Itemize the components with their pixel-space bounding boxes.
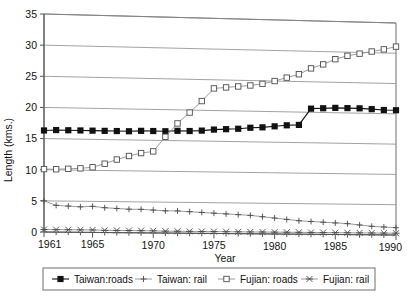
marker-fujian-roads-9 — [151, 149, 156, 154]
marker-fujian-roads-0 — [41, 166, 46, 171]
marker-taiwan-roads-2 — [65, 127, 71, 133]
marker-taiwan-roads-3 — [77, 127, 83, 133]
marker-fujian-roads-11 — [175, 121, 180, 126]
marker-taiwan-rail-22 — [308, 218, 314, 224]
marker-taiwan-roads-22 — [308, 106, 314, 112]
marker-legend--legend — [57, 276, 63, 282]
series-line-0 — [44, 108, 396, 131]
marker-taiwan-rail-5 — [102, 205, 108, 211]
marker-fujian-roads-17 — [248, 83, 253, 88]
marker-fujian-roads-27 — [369, 49, 374, 54]
x-tick-label-1975: 1975 — [202, 239, 226, 251]
line-chart: 05101520253035 1961196519701975198019851… — [0, 0, 409, 299]
legend-label-2: Fujian: roads — [240, 274, 298, 285]
marker-taiwan-rail-11 — [175, 208, 181, 214]
x-tick-label-1980: 1980 — [263, 240, 287, 252]
marker-taiwan-roads-10 — [162, 128, 168, 134]
marker-taiwan-rail-0 — [41, 198, 47, 204]
marker-taiwan-rail-2 — [65, 203, 71, 209]
marker-fujian-roads-13 — [199, 98, 204, 103]
marker-taiwan-roads-5 — [102, 128, 108, 134]
marker-fujian-roads-2 — [66, 166, 71, 171]
y-tick-label-10: 10 — [25, 164, 37, 176]
marker-fujian-roads-1 — [53, 167, 58, 172]
x-tick-label-1985: 1985 — [324, 240, 348, 252]
marker-taiwan-roads-17 — [247, 125, 253, 131]
x-axis-title: Year — [214, 252, 236, 264]
marker-fujian-roads-18 — [260, 81, 265, 86]
marker-taiwan-roads-12 — [187, 128, 193, 134]
legend-label-3: Fujian: rail — [323, 274, 369, 285]
legend-label-0: Taiwan:roads — [74, 274, 133, 285]
chart-legend: Taiwan:roadsTaiwan: railFujian: roadsFuj… — [43, 268, 375, 290]
series-line-1 — [44, 201, 396, 228]
marker-taiwan-roads-24 — [332, 105, 338, 111]
marker-fujian-roads-4 — [90, 165, 95, 170]
marker-taiwan-rail-26 — [357, 222, 363, 228]
y-axis-title: Length (kms.) — [2, 118, 14, 182]
marker-taiwan-rail-6 — [114, 205, 120, 211]
marker-taiwan-roads-29 — [393, 107, 399, 113]
marker-taiwan-rail-29 — [393, 225, 399, 231]
marker-fujian-roads-12 — [187, 110, 192, 115]
marker-taiwan-rail-25 — [344, 221, 350, 227]
marker-taiwan-rail-28 — [381, 224, 387, 230]
marker-fujian-roads-7 — [126, 153, 131, 158]
marker-fujian-roads-24 — [333, 56, 338, 61]
marker-taiwan-rail-18 — [259, 214, 265, 220]
marker-fujian-roads-3 — [78, 166, 83, 171]
marker-taiwan-roads-11 — [174, 128, 180, 134]
y-tick-label-35: 35 — [25, 8, 37, 20]
gridline-15 — [44, 139, 396, 145]
marker-taiwan-rail-9 — [150, 207, 156, 213]
marker-fujian-roads-23 — [320, 62, 325, 67]
y-tick-label-25: 25 — [25, 70, 37, 82]
marker-taiwan-roads-20 — [284, 122, 290, 128]
marker-taiwan-roads-1 — [53, 127, 59, 133]
marker-taiwan-roads-4 — [89, 128, 95, 134]
marker-taiwan-rail-21 — [296, 218, 302, 224]
y-tick-labels: 05101520253035 — [25, 8, 37, 238]
y-tick-label-0: 0 — [31, 226, 37, 238]
marker-taiwan-rail-14 — [211, 210, 217, 216]
marker-taiwan-roads-7 — [126, 128, 132, 134]
gridline-35 — [44, 14, 396, 23]
marker-fujian-roads-22 — [308, 66, 313, 71]
marker-fujian-roads-10 — [163, 134, 168, 139]
marker-taiwan-roads-15 — [223, 126, 229, 132]
marker-fujian-roads-20 — [284, 75, 289, 80]
marker-taiwan-roads-26 — [356, 105, 362, 111]
marker-fujian-roads-8 — [138, 150, 143, 155]
plot-frame — [44, 14, 396, 235]
marker-fujian-roads-6 — [114, 157, 119, 162]
y-tick-label-30: 30 — [25, 39, 37, 51]
series-taiwan-roads — [41, 105, 399, 135]
y-tick-label-5: 5 — [31, 195, 37, 207]
marker-taiwan-roads-27 — [369, 106, 375, 112]
legend-label-1: Taiwan: rail — [157, 274, 207, 285]
marker-taiwan-roads-14 — [211, 126, 217, 132]
gridline-10 — [44, 170, 396, 175]
data-series-layer — [40, 44, 399, 236]
x-tick-label-1961: 1961 — [38, 238, 62, 250]
marker-taiwan-rail-16 — [235, 212, 241, 218]
marker-fujian-roads-28 — [381, 47, 386, 52]
marker-taiwan-roads-13 — [199, 128, 205, 134]
marker-taiwan-rail-10 — [162, 208, 168, 214]
marker-taiwan-roads-21 — [296, 122, 302, 128]
marker-taiwan-rail-7 — [126, 206, 132, 212]
marker-taiwan-rail-12 — [187, 209, 193, 215]
gridline-30 — [44, 45, 396, 53]
marker-taiwan-rail-23 — [320, 219, 326, 225]
marker-taiwan-rail-8 — [138, 206, 144, 212]
marker-legend--legend — [224, 276, 229, 281]
marker-taiwan-rail-20 — [284, 216, 290, 222]
marker-taiwan-rail-15 — [223, 211, 229, 217]
marker-taiwan-roads-25 — [344, 105, 350, 111]
marker-taiwan-roads-6 — [114, 128, 120, 134]
marker-taiwan-rail-17 — [247, 212, 253, 218]
gridline-25 — [44, 76, 396, 83]
marker-fujian-roads-21 — [296, 72, 301, 77]
y-tick-label-15: 15 — [25, 132, 37, 144]
marker-taiwan-roads-18 — [259, 124, 265, 130]
